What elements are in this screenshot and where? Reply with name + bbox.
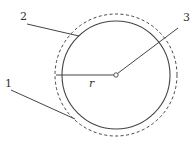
label-3: 3 bbox=[183, 11, 190, 24]
leader-line-2 bbox=[27, 24, 79, 36]
label-1: 1 bbox=[5, 77, 12, 90]
label-radius: r bbox=[89, 77, 95, 90]
label-2: 2 bbox=[20, 10, 27, 23]
diagram-canvas: 2 3 1 r bbox=[0, 0, 196, 144]
